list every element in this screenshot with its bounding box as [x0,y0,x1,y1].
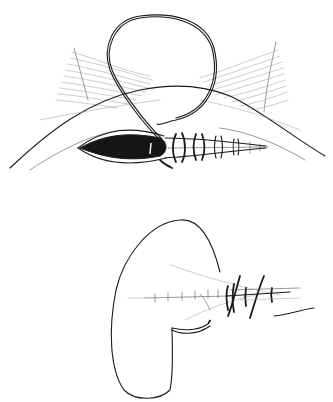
suture-knots [226,276,300,318]
suture-tail [274,308,314,316]
skin-surface-line [10,86,325,168]
surgical-illustration: Two-panel surgical line illustration of … [0,0,333,402]
left-tissue-hatching [56,48,152,108]
suture-line [128,290,230,302]
running-suture-closure [165,133,268,162]
bottom-panel [111,220,314,398]
illustration-svg [0,0,333,402]
top-panel [10,15,325,170]
open-wound [78,130,166,163]
tissue-outline [111,220,220,398]
